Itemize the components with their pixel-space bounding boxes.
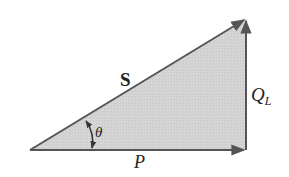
label-q-subscript: L [265,94,272,108]
label-theta: θ [95,125,102,140]
label-q: Q [251,84,265,105]
label-s: S [120,70,131,89]
label-p: P [134,153,145,171]
power-triangle-diagram [0,0,289,177]
label-ql: QL [251,85,271,107]
